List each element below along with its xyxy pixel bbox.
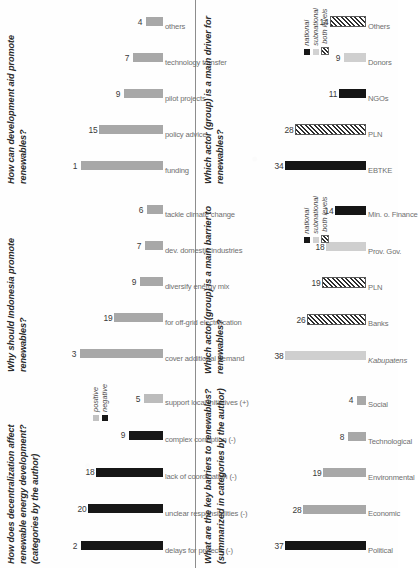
bar	[322, 277, 366, 288]
bar-column: 19	[274, 265, 366, 301]
bar-column: 18	[65, 454, 163, 491]
bar	[96, 468, 163, 477]
legend-label: subnational	[311, 8, 320, 46]
bar	[303, 505, 366, 514]
bar-series: 37281984	[274, 382, 366, 564]
bar-value-label: 9	[116, 89, 120, 99]
legend-label: national	[302, 20, 311, 46]
legend-label: subnational	[311, 196, 320, 234]
category-tick: Donors	[366, 40, 396, 76]
plot-area: 2201895delays for projects (-)unclear re…	[65, 380, 193, 564]
legend-swatch-icon	[102, 415, 108, 421]
category-label: others	[165, 22, 185, 31]
bar-value-label: 4	[138, 17, 142, 27]
bar-value-label: 8	[340, 432, 344, 442]
category-axis: PoliticalEconomicEnvironmentalTechnologi…	[366, 382, 396, 564]
bar	[335, 206, 366, 215]
category-tick: Economic	[366, 491, 396, 527]
bar-column: 20	[65, 490, 163, 527]
bar-value-label: 9	[121, 430, 125, 440]
category-tick: support local initiatives (+)	[163, 380, 193, 417]
category-tick: others	[163, 4, 193, 40]
bar	[285, 162, 366, 171]
category-axis: cover additional demandfor off-grid elec…	[163, 192, 193, 372]
bar	[344, 54, 366, 63]
category-label: Kabupatens	[368, 356, 407, 365]
bar-value-label: 38	[275, 351, 284, 361]
bar	[114, 314, 164, 323]
bar	[307, 314, 366, 325]
category-tick: policy advice	[163, 112, 193, 148]
category-tick: unclear responsibilities (-)	[163, 490, 193, 527]
bar-column: 4	[65, 4, 163, 40]
category-label: Others	[368, 22, 390, 31]
category-tick: NGOs	[366, 76, 396, 112]
bar-value-label: 18	[85, 467, 94, 477]
bar-column: 28	[274, 112, 366, 148]
bar-value-label: 19	[103, 313, 112, 323]
legend-swatch-icon	[93, 415, 99, 421]
category-tick: Min. o. Finance	[366, 192, 396, 228]
chart-legend: nationalsubnationalboth levels	[302, 8, 329, 55]
bar-value-label: 7	[137, 241, 141, 251]
legend-entry: both levels	[320, 196, 329, 243]
bar	[295, 125, 366, 136]
chart-row-bottom: What are the key barriers to renewables?…	[197, 0, 398, 568]
bar-column: 4	[274, 382, 366, 418]
bar	[147, 206, 163, 215]
bar	[339, 90, 366, 99]
legend-label: negative	[100, 384, 109, 412]
bar	[99, 126, 164, 135]
legend-label: both levels	[320, 8, 329, 43]
bar-value-label: 20	[78, 504, 87, 514]
bar-value-label: 5	[136, 393, 140, 403]
legend-swatch-icon	[321, 47, 329, 55]
bar-column: 3	[65, 336, 163, 372]
bar-column: 8	[274, 418, 366, 454]
bar	[140, 278, 163, 287]
bar-column: 11	[274, 76, 366, 112]
bar-value-label: 34	[275, 161, 284, 171]
category-axis: EBTKEPLNNGOsDonorsOthers	[366, 4, 396, 184]
bar-column: 7	[65, 228, 163, 264]
category-tick: Banks	[366, 301, 396, 337]
category-label: funding	[165, 166, 189, 175]
chart-title: How can development aid promote renewabl…	[6, 4, 29, 184]
legend-entry: positive	[91, 384, 100, 421]
bar-column: 5	[65, 380, 163, 417]
bar-column: 34	[274, 148, 366, 184]
bar-value-label: 19	[312, 278, 321, 288]
chart-subtitle: (summarized in categories by the author)	[216, 382, 228, 564]
legend-entry: national	[302, 8, 311, 55]
bar	[323, 468, 366, 477]
chart-title: What are the key barriers to renewables?	[203, 382, 215, 564]
bar-value-label: 19	[313, 468, 322, 478]
bar	[81, 541, 163, 550]
category-tick: Kabupatens	[366, 338, 396, 374]
category-tick: cover additional demand	[163, 336, 193, 372]
bar-value-label: 9	[131, 277, 135, 287]
bar	[330, 17, 366, 28]
category-label: Prov. Gov.	[368, 247, 401, 256]
category-tick: PLN	[366, 265, 396, 301]
bar	[285, 541, 366, 550]
chart-panel-why-promote-renewables: Why should Indonesia promote renewables?…	[0, 188, 195, 376]
bar-value-label: 1	[73, 161, 77, 171]
category-label: Political	[368, 546, 393, 555]
plot-area: 115974fundingpolicy advicepilot projects…	[65, 4, 193, 184]
category-label: Min. o. Finance	[368, 210, 418, 219]
category-tick: delays for projects (-)	[163, 527, 193, 564]
bar-value-label: 28	[285, 125, 294, 135]
bar-column: 28	[274, 491, 366, 527]
legend-entry: subnational	[311, 8, 320, 55]
bar-column: 37	[274, 528, 366, 564]
category-tick: Environmental	[366, 455, 396, 491]
bar-value-label: 4	[349, 395, 353, 405]
bar-column: 6	[65, 192, 163, 228]
legend-entry: both levels	[320, 8, 329, 55]
bar-column: 38	[274, 338, 366, 374]
category-label: Donors	[368, 58, 392, 67]
chart-panel-development-aid: How can development aid promote renewabl…	[0, 0, 195, 188]
category-tick: pilot projects	[163, 76, 193, 112]
